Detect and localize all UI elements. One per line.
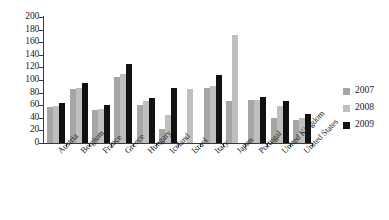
- legend-swatch-icon: [343, 88, 350, 95]
- bar-group: [92, 17, 110, 143]
- legend-item[interactable]: 2007: [343, 84, 389, 98]
- legend-item[interactable]: 2009: [343, 118, 389, 132]
- x-axis-tick: [178, 144, 179, 147]
- chart-legend: 200720082009: [343, 84, 389, 135]
- bar-group: [159, 17, 177, 143]
- y-axis-tick-label: 160: [11, 37, 39, 47]
- bar-group: [70, 17, 88, 143]
- y-axis-tick-label: 80: [11, 88, 39, 98]
- bar-group: [204, 17, 222, 143]
- x-axis-tick: [200, 144, 201, 147]
- x-axis-tick: [133, 144, 134, 147]
- y-axis-tick-label: 20: [11, 125, 39, 135]
- bar-2009: [305, 114, 311, 143]
- bar-2009: [149, 98, 155, 143]
- y-axis-tick-label: 0: [11, 138, 39, 148]
- bar-group: [114, 17, 132, 143]
- bar-2009: [104, 105, 110, 143]
- y-axis-tick-label: 180: [11, 25, 39, 35]
- y-axis-tick-label: 100: [11, 75, 39, 85]
- x-axis-tick: [111, 144, 112, 147]
- y-axis-tick-label: 120: [11, 62, 39, 72]
- legend-swatch-icon: [343, 105, 350, 112]
- bar-2008: [187, 89, 193, 143]
- bar-group: [137, 17, 155, 143]
- bar-2008: [232, 35, 238, 143]
- x-axis-tick: [66, 144, 67, 147]
- legend-label: 2009: [355, 120, 374, 130]
- plot-area: [44, 17, 312, 143]
- bar-group: [293, 17, 311, 143]
- bar-chart: 020406080100120140160180200 AustriaBelgi…: [0, 0, 389, 220]
- y-axis-tick-labels: 020406080100120140160180200: [6, 0, 39, 220]
- bar-2009: [126, 64, 132, 143]
- x-axis-tick: [312, 144, 313, 147]
- x-axis-tick: [290, 144, 291, 147]
- bar-2009: [283, 101, 289, 143]
- legend-item[interactable]: 2008: [343, 101, 389, 115]
- bar-2009: [216, 75, 222, 143]
- bar-group: [271, 17, 289, 143]
- bar-2009: [82, 83, 88, 143]
- y-axis-tick-label: 40: [11, 113, 39, 123]
- bar-group: [226, 17, 244, 143]
- bar-2009: [171, 88, 177, 143]
- legend-swatch-icon: [343, 122, 350, 129]
- bar-group: [47, 17, 65, 143]
- legend-label: 2008: [355, 103, 374, 113]
- y-axis-tick: [39, 143, 44, 144]
- x-axis-tick: [223, 144, 224, 147]
- x-axis-tick: [156, 144, 157, 147]
- x-axis-tick: [267, 144, 268, 147]
- legend-label: 2007: [355, 86, 374, 96]
- bar-2009: [59, 103, 65, 143]
- bar-group: [181, 17, 199, 143]
- y-axis-tick-label: 60: [11, 100, 39, 110]
- y-axis-tick-label: 200: [11, 12, 39, 22]
- bar-group: [248, 17, 266, 143]
- x-axis-tick: [245, 144, 246, 147]
- x-axis-tick: [89, 144, 90, 147]
- y-axis-tick-label: 140: [11, 50, 39, 60]
- bar-2009: [260, 97, 266, 143]
